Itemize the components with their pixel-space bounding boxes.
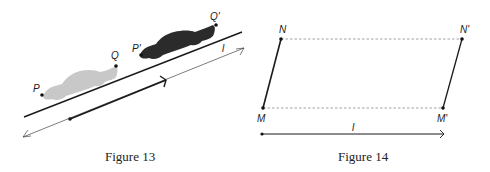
figures-canvas: P Q P' Q' l Figure 13 N N' M M' l Figure… — [0, 0, 490, 172]
vector-l-tail — [260, 132, 263, 135]
point-Q-prime — [214, 23, 218, 27]
point-Q — [114, 64, 118, 68]
label-P-prime: P' — [132, 43, 142, 54]
label-Q-prime: Q' — [210, 11, 221, 22]
point-M — [261, 106, 265, 110]
label-M-prime: M' — [437, 113, 448, 124]
figure-14-caption: Figure 14 — [338, 149, 389, 164]
segment-MN — [263, 39, 281, 108]
arrowhead-right-icon — [236, 48, 244, 55]
point-M-prime — [441, 106, 445, 110]
label-Q: Q — [111, 50, 119, 61]
figure-13-caption: Figure 13 — [105, 149, 155, 164]
point-N — [279, 37, 283, 41]
label-P: P — [33, 83, 40, 94]
point-N-prime — [460, 37, 464, 41]
arrowhead-left-icon — [23, 130, 31, 137]
figure-14: N N' M M' l Figure 14 — [257, 24, 470, 164]
label-M: M — [257, 113, 266, 124]
car-translated-icon — [140, 25, 215, 59]
label-l: l — [222, 43, 225, 54]
segment-M-prime-N-prime — [443, 39, 462, 108]
label-l: l — [352, 122, 355, 133]
label-N-prime: N' — [460, 24, 470, 35]
label-N: N — [279, 24, 287, 35]
vector-tail-point — [68, 117, 72, 121]
figure-13: P Q P' Q' l Figure 13 — [23, 11, 244, 164]
point-P — [40, 93, 44, 97]
